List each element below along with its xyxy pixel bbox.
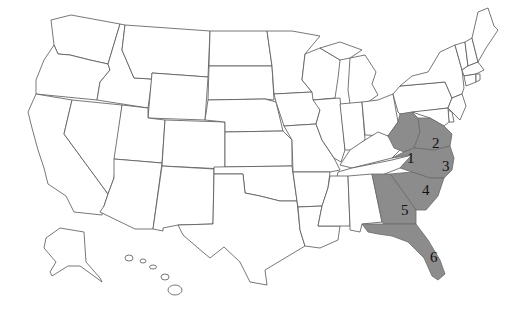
state-wyoming: [148, 73, 208, 120]
state-maine: [472, 8, 498, 62]
region-label-3: 3: [442, 158, 450, 174]
state-colorado: [162, 120, 225, 169]
region-label-4: 4: [422, 182, 430, 198]
us-map: 1 2 3 4 5 6: [0, 0, 530, 313]
hawaii-island-3: [150, 265, 157, 269]
region-label-1: 1: [407, 150, 415, 166]
hawaii-island-2: [140, 259, 146, 263]
state-kansas: [225, 131, 292, 167]
state-montana: [122, 25, 210, 79]
state-connecticut: [464, 74, 476, 86]
hawaii-island-1: [125, 255, 133, 261]
region-label-2: 2: [432, 135, 440, 151]
hawaii-island-5: [168, 285, 182, 295]
region-label-6: 6: [430, 249, 438, 265]
region-label-5: 5: [401, 202, 409, 218]
state-south-dakota: [208, 66, 274, 100]
state-rhode-island: [476, 74, 480, 82]
state-north-dakota: [209, 31, 272, 66]
state-alaska: [44, 228, 102, 282]
state-new-mexico: [153, 166, 214, 231]
state-michigan: [348, 55, 378, 104]
hawaii-island-4: [161, 274, 169, 280]
